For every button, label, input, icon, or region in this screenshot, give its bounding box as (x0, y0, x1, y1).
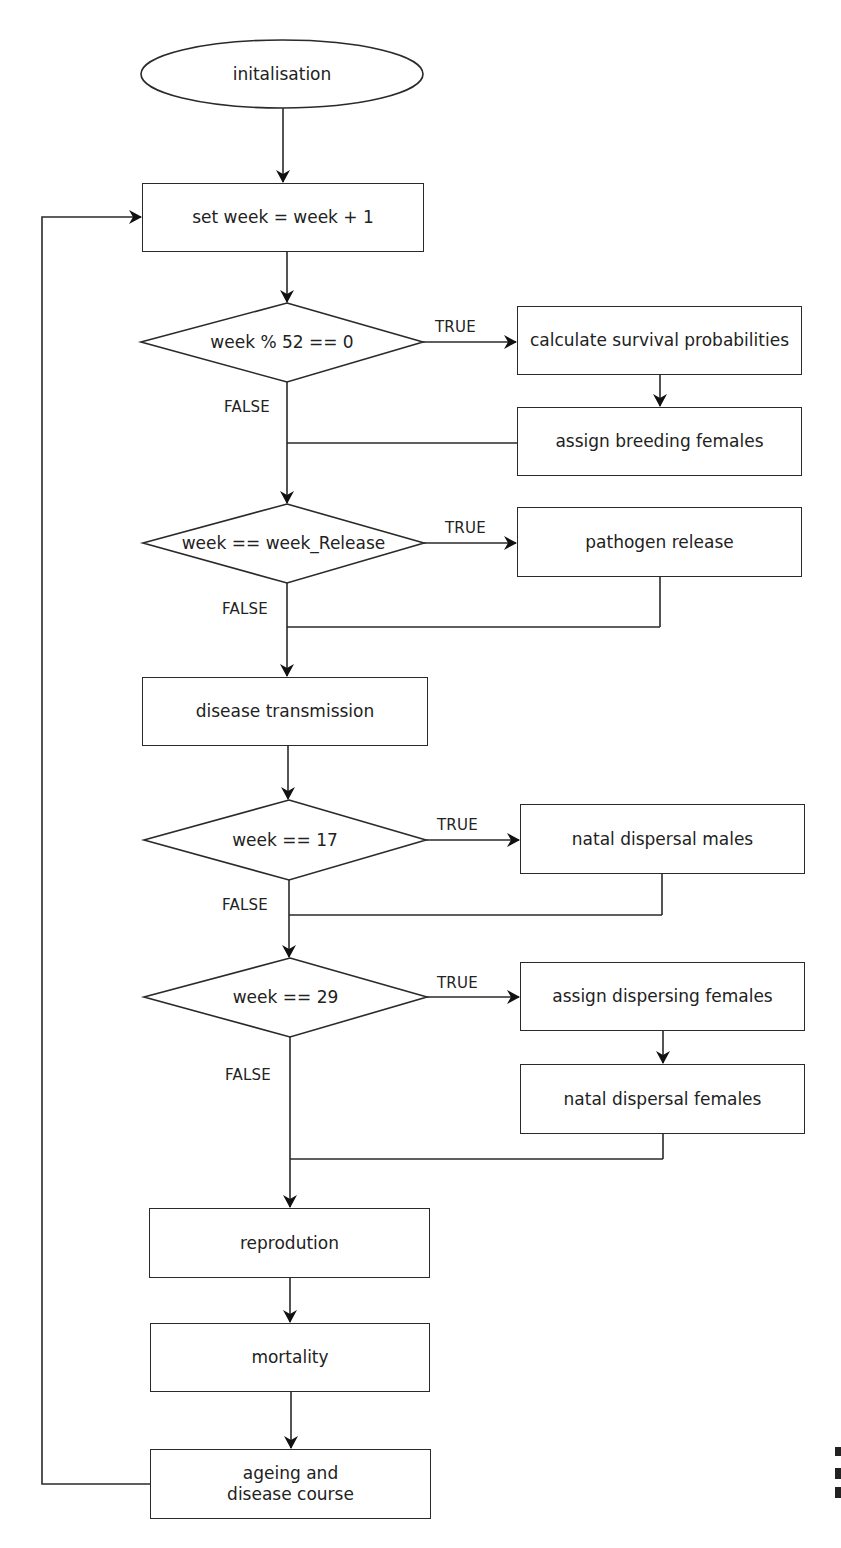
assign-dispersing-box: assign dispersing females (520, 962, 805, 1031)
decision-3-true-label: TRUE (437, 816, 478, 834)
decision-2-label: week == week_Release (182, 533, 386, 554)
natal-dispersal-males-label: natal dispersal males (572, 829, 753, 850)
decision-2-node: week == week_Release (143, 504, 424, 583)
assign-dispersing-label: assign dispersing females (552, 986, 772, 1007)
ageing-box: ageing and disease course (150, 1449, 431, 1519)
decision-2-false-label: FALSE (222, 600, 268, 618)
cropped-caption-fragment (835, 1487, 841, 1498)
decision-4-label: week == 29 (233, 987, 339, 1008)
cropped-caption-fragment (835, 1468, 841, 1479)
decision-4-node: week == 29 (144, 958, 427, 1037)
increment-week-label: set week = week + 1 (192, 207, 374, 228)
decision-4-true-label: TRUE (437, 974, 478, 992)
natal-dispersal-females-label: natal dispersal females (564, 1089, 762, 1110)
reproduction-label: reprodution (240, 1233, 339, 1254)
calc-survival-label: calculate survival probabilities (530, 330, 789, 351)
decision-1-true-label: TRUE (435, 318, 476, 336)
pathogen-release-box: pathogen release (517, 507, 802, 577)
cropped-caption-fragment (835, 1447, 841, 1456)
natal-dispersal-females-box: natal dispersal females (520, 1064, 805, 1134)
start-node: initalisation (141, 40, 423, 109)
ageing-label-line2: disease course (227, 1484, 354, 1505)
decision-1-node: week % 52 == 0 (141, 303, 423, 382)
calc-survival-box: calculate survival probabilities (517, 306, 802, 375)
pathogen-release-label: pathogen release (585, 532, 733, 553)
assign-breeding-box: assign breeding females (517, 407, 802, 476)
mortality-label: mortality (251, 1347, 328, 1368)
mortality-box: mortality (150, 1323, 430, 1392)
disease-transmission-box: disease transmission (142, 677, 428, 746)
natal-dispersal-males-box: natal dispersal males (520, 804, 805, 874)
ageing-label-line1: ageing and (243, 1463, 338, 1484)
assign-breeding-label: assign breeding females (555, 431, 763, 452)
start-label: initalisation (233, 64, 332, 85)
increment-week-box: set week = week + 1 (142, 183, 424, 252)
reproduction-box: reprodution (149, 1208, 430, 1278)
decision-1-label: week % 52 == 0 (210, 332, 353, 353)
decision-3-node: week == 17 (144, 800, 426, 880)
decision-1-false-label: FALSE (224, 398, 270, 416)
disease-transmission-label: disease transmission (196, 701, 375, 722)
decision-2-true-label: TRUE (445, 519, 486, 537)
decision-3-false-label: FALSE (222, 896, 268, 914)
decision-3-label: week == 17 (232, 830, 338, 851)
decision-4-false-label: FALSE (225, 1066, 271, 1084)
